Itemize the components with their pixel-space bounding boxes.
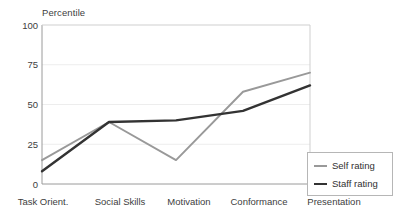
chart-legend: Self rating Staff rating — [307, 152, 393, 196]
legend-item-self-rating: Self rating — [314, 158, 375, 174]
percentile-line-chart: Percentile 100 75 50 25 0 Task Orient. S… — [0, 0, 398, 224]
series-line-staff-rating — [42, 85, 310, 171]
gridlines — [42, 65, 310, 145]
legend-swatch-icon-self-rating — [314, 165, 327, 167]
legend-label-staff-rating: Staff rating — [332, 179, 378, 189]
legend-item-staff-rating: Staff rating — [314, 176, 378, 192]
series-line-self-rating — [42, 73, 310, 160]
legend-label-self-rating: Self rating — [332, 161, 375, 171]
legend-swatch-icon-staff-rating — [314, 183, 327, 185]
